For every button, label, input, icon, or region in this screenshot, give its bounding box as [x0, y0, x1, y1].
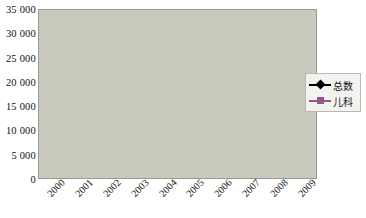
plot-area — [38, 9, 317, 179]
legend-swatch-total — [309, 79, 331, 91]
x-tick-label: 2001 — [73, 177, 95, 199]
legend-swatch-pediatrics — [309, 95, 331, 107]
y-tick-label: 25 000 — [6, 52, 36, 63]
x-tick-label: 2006 — [212, 177, 234, 199]
y-tick-label: 30 000 — [6, 28, 36, 39]
y-tick-label: 5 000 — [11, 149, 36, 160]
x-axis: 2000200120022003200420052006200720082009 — [38, 180, 317, 218]
x-tick-label: 2008 — [268, 177, 290, 199]
legend: 总数 儿科 — [305, 73, 361, 112]
x-tick-label: 2005 — [184, 177, 206, 199]
diamond-marker-icon — [316, 80, 326, 90]
legend-label-pediatrics: 儿科 — [333, 94, 353, 109]
x-tick-label: 2004 — [156, 177, 178, 199]
y-tick-label: 20 000 — [6, 76, 36, 87]
x-tick-label: 2002 — [101, 177, 123, 199]
y-tick-label: 35 000 — [6, 4, 36, 15]
y-tick-label: 10 000 — [6, 125, 36, 136]
legend-entry-total: 总数 — [309, 77, 357, 93]
square-marker-icon — [317, 97, 324, 104]
plot-background — [38, 9, 317, 179]
y-tick-label: 15 000 — [6, 101, 36, 112]
legend-entry-pediatrics: 儿科 — [309, 93, 357, 109]
line-chart: 05 00010 00015 00020 00025 00030 00035 0… — [0, 0, 366, 218]
y-tick-label: 0 — [31, 174, 36, 185]
x-tick-label: 2009 — [296, 177, 318, 199]
y-axis: 05 00010 00015 00020 00025 00030 00035 0… — [0, 0, 36, 218]
legend-label-total: 总数 — [333, 78, 353, 93]
x-tick-label: 2003 — [129, 177, 151, 199]
x-tick-label: 2007 — [240, 177, 262, 199]
x-tick-label: 2000 — [45, 177, 67, 199]
